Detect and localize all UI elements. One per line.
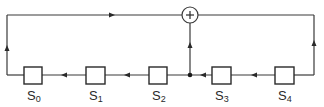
arrow-left-icon xyxy=(200,73,206,78)
arrow-left-icon xyxy=(251,73,257,78)
label-s2: S2 xyxy=(152,88,166,104)
lfsr-diagram: S0 S1 S2 S3 S4 xyxy=(0,0,324,107)
register-s1 xyxy=(86,67,105,84)
arrow-right-icon xyxy=(109,13,115,18)
label-s3: S3 xyxy=(215,88,229,104)
register-s4 xyxy=(275,67,294,84)
label-s0: S0 xyxy=(27,88,41,104)
arrow-up-icon xyxy=(188,42,193,48)
register-s2 xyxy=(149,67,167,84)
arrow-up-icon xyxy=(5,45,10,51)
register-s0 xyxy=(24,67,42,84)
label-s4: S4 xyxy=(278,88,292,104)
junction-dot xyxy=(188,73,193,78)
arrow-left-icon xyxy=(124,73,130,78)
label-s1: S1 xyxy=(89,88,103,104)
register-s3 xyxy=(212,67,231,84)
arrow-up-icon xyxy=(312,40,317,46)
arrow-left-icon xyxy=(61,73,67,78)
